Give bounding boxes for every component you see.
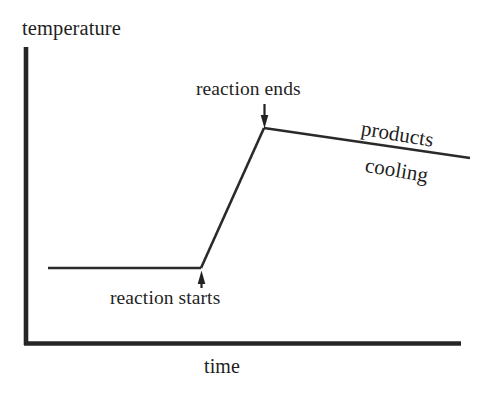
x-axis-title: time: [204, 356, 240, 376]
annotation-reaction-ends-label: reaction ends: [196, 79, 301, 99]
temperature-time-figure: temperature time reaction ends reaction …: [0, 0, 491, 393]
reaction-ends-arrow-icon: [261, 104, 269, 129]
annotation-reaction-starts-label: reaction starts: [110, 288, 220, 308]
reaction-starts-arrow-icon: [198, 271, 206, 289]
plot-area: [0, 0, 491, 393]
y-axis-title: temperature: [22, 18, 121, 39]
temperature-curve: [48, 128, 470, 268]
curve-rise-segment: [201, 128, 264, 268]
